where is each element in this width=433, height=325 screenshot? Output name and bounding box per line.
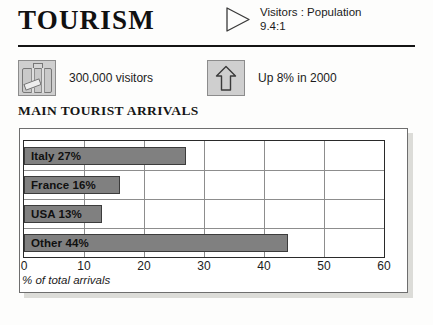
bar[interactable]: France 16% — [24, 176, 120, 194]
page-title: TOURISM — [18, 4, 155, 36]
bar-row: Italy 27% — [24, 141, 384, 170]
x-axis-label: % of total arrivals — [22, 274, 110, 286]
chart-heading: MAIN TOURIST ARRIVALS — [18, 103, 199, 119]
suitcase-icon — [18, 60, 56, 96]
x-tick-label: 60 — [377, 259, 390, 273]
tourism-infographic: TOURISM Visitors : Population 9.4:1 — [0, 0, 433, 325]
stat-growth: Up 8% in 2000 — [207, 56, 337, 100]
bar[interactable]: Other 44% — [24, 234, 288, 252]
bar-label: Other 44% — [25, 237, 89, 249]
x-tick-label: 20 — [137, 259, 150, 273]
up-arrow-icon — [207, 60, 245, 96]
ratio-line-1: Visitors : Population — [260, 6, 361, 18]
bar-chart-plot-area: Italy 27%France 16%USA 13%Other 44% — [23, 140, 385, 258]
x-axis-ticks: 0102030405060 — [23, 259, 385, 273]
bar[interactable]: Italy 27% — [24, 147, 186, 165]
stat-visitors-label: 300,000 visitors — [69, 71, 153, 85]
stat-growth-label: Up 8% in 2000 — [258, 71, 337, 85]
x-tick-label: 50 — [317, 259, 330, 273]
triangle-right-icon — [225, 6, 251, 37]
up-arrow-glyph — [215, 65, 237, 96]
header: TOURISM Visitors : Population 9.4:1 — [18, 4, 416, 44]
bar[interactable]: USA 13% — [24, 205, 102, 223]
bar-row: Other 44% — [24, 228, 384, 257]
ratio-line-2: 9.4:1 — [260, 19, 361, 33]
bar-label: USA 13% — [25, 208, 82, 220]
bar-row: France 16% — [24, 170, 384, 199]
bar-row: USA 13% — [24, 199, 384, 228]
ratio-text: Visitors : Population 9.4:1 — [260, 5, 361, 33]
x-tick-label: 0 — [21, 259, 28, 273]
stats-row: 300,000 visitors Up 8% in 2000 — [18, 56, 418, 100]
x-tick-label: 10 — [77, 259, 90, 273]
visitors-population-ratio: Visitors : Population 9.4:1 — [225, 5, 361, 37]
bar-label: France 16% — [25, 179, 96, 191]
x-tick-label: 40 — [257, 259, 270, 273]
stat-visitors: 300,000 visitors — [18, 56, 153, 100]
header-divider — [18, 45, 415, 47]
x-tick-label: 30 — [197, 259, 210, 273]
suitcase-strap-right — [41, 68, 45, 93]
bar-label: Italy 27% — [25, 150, 81, 162]
